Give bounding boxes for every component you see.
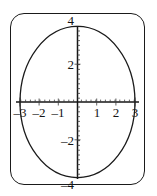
y-tick-label--2: –2 xyxy=(56,134,74,147)
y-tick-label-2: 2 xyxy=(58,58,74,71)
x-tick-label--3: –3 xyxy=(14,106,27,119)
x-tick-label--2: –2 xyxy=(33,106,46,119)
y-tick-label-4: 4 xyxy=(58,14,74,27)
plot-canvas xyxy=(0,0,157,196)
x-tick-label-2: 2 xyxy=(113,106,120,119)
x-tick-label-1: 1 xyxy=(94,106,101,119)
graph-figure: –3 –2 –1 1 2 3 4 2 –2 –4 xyxy=(0,0,157,196)
y-tick-label--4: –4 xyxy=(56,178,74,191)
x-tick-label--1: –1 xyxy=(52,106,65,119)
x-tick-label-3: 3 xyxy=(132,106,139,119)
